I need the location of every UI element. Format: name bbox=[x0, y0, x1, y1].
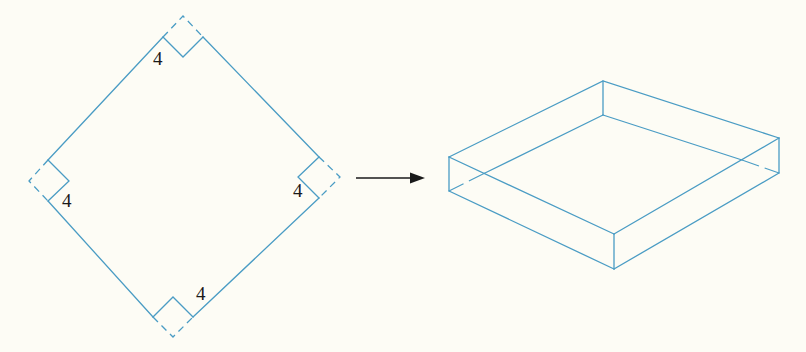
removed-square-top bbox=[163, 16, 203, 37]
cut-size-label-left: 4 bbox=[62, 191, 72, 210]
arrow-right-icon bbox=[356, 173, 425, 184]
box-bottom-left bbox=[449, 191, 614, 269]
removed-square-right bbox=[319, 157, 340, 198]
diagram-canvas: 4 4 4 4 bbox=[0, 0, 806, 352]
box-inner-left bbox=[485, 115, 603, 173]
removed-square-bottom bbox=[153, 317, 193, 337]
cut-size-label-right: 4 bbox=[293, 181, 303, 200]
net-edge-bottom-left bbox=[48, 201, 153, 317]
cut-size-label-top: 4 bbox=[153, 49, 163, 68]
box-hidden-left bbox=[449, 173, 485, 191]
net-edge-top-left bbox=[48, 37, 163, 160]
box-rim-front-right bbox=[614, 138, 779, 234]
box-bottom-right bbox=[614, 173, 779, 269]
box-inner-right bbox=[603, 115, 742, 160]
box-rim-front-left bbox=[449, 157, 614, 234]
net-edge-bottom-right bbox=[193, 198, 319, 317]
figure-svg bbox=[0, 0, 806, 352]
net-edge-top-right bbox=[203, 37, 319, 157]
removed-square-left bbox=[29, 160, 48, 201]
cut-corner-top bbox=[163, 37, 203, 57]
cut-corner-bottom bbox=[153, 297, 193, 317]
flat-net bbox=[29, 16, 340, 337]
box-hidden-right bbox=[742, 160, 779, 173]
cut-size-label-bottom: 4 bbox=[196, 284, 206, 303]
open-box bbox=[449, 81, 779, 269]
